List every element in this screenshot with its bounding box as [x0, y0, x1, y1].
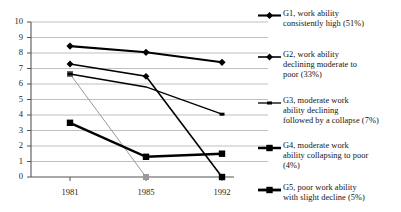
y-axis — [27, 22, 31, 177]
ytick-label-0: 0 — [2, 171, 23, 181]
work-ability-line-chart: 10 9 8 7 6 5 4 3 2 1 0 1981 1985 1992 G1… — [0, 0, 401, 212]
ytick-label-9: 9 — [2, 32, 23, 42]
g2-endpoint-1992 — [219, 174, 225, 180]
ytick-label-8: 8 — [2, 47, 23, 57]
legend-item-g2-label: G2, work ability declining moderate to p… — [283, 50, 401, 81]
legend-item-g1-label: G1, work ability consistently high (51%) — [283, 9, 401, 29]
ytick-label-1: 1 — [2, 156, 23, 166]
legend-item-g5: G5, poor work ability with slight declin… — [283, 183, 401, 203]
series-g4-line — [67, 120, 225, 160]
xtick-label-1981: 1981 — [46, 187, 94, 197]
legend-marker-g3 — [258, 102, 281, 105]
legend-markers — [258, 12, 281, 193]
legend-item-g1: G1, work ability consistently high (51%) — [283, 9, 401, 29]
legend-item-g4-label: G4, moderate work ability collapsing to … — [283, 141, 401, 172]
chart-legend: G1, work ability consistently high (51%)… — [283, 0, 401, 212]
legend-marker-g2 — [258, 54, 281, 61]
legend-item-g3-label: G3, moderate work ability declining foll… — [283, 96, 401, 127]
x-axis — [31, 177, 234, 181]
ytick-label-5: 5 — [2, 94, 23, 104]
ytick-label-2: 2 — [2, 140, 23, 150]
ytick-label-7: 7 — [2, 63, 23, 73]
ytick-label-10: 10 — [2, 16, 23, 26]
series-g1-line — [66, 43, 225, 66]
legend-item-g5-label: G5, poor work ability with slight declin… — [283, 183, 401, 203]
legend-marker-g5 — [258, 187, 281, 193]
series-g5-line — [67, 71, 149, 180]
xtick-label-1992: 1992 — [198, 187, 246, 197]
legend-item-g2: G2, work ability declining moderate to p… — [283, 50, 401, 81]
legend-item-g3: G3, moderate work ability declining foll… — [283, 96, 401, 127]
ytick-label-3: 3 — [2, 125, 23, 135]
gridlines — [31, 22, 268, 162]
ytick-label-6: 6 — [2, 78, 23, 88]
ytick-label-4: 4 — [2, 109, 23, 119]
xtick-label-1985: 1985 — [122, 187, 170, 197]
legend-marker-g1 — [258, 12, 281, 19]
legend-item-g4: G4, moderate work ability collapsing to … — [283, 141, 401, 172]
